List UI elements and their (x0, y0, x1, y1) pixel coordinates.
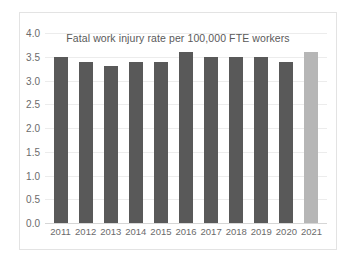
bar-slot (148, 33, 173, 223)
x-axis-tick-label: 2011 (48, 226, 73, 237)
plot-area: 4.03.53.02.52.01.51.00.50.0 (45, 33, 327, 223)
bar-slot (224, 33, 249, 223)
x-axis-tick-label: 2016 (173, 226, 198, 237)
y-axis-tick-label: 1.5 (26, 146, 40, 157)
bar[interactable] (179, 52, 193, 223)
x-axis-tick-label: 2012 (73, 226, 98, 237)
bar[interactable] (104, 66, 118, 223)
bar-slot (274, 33, 299, 223)
x-axis-tick-label: 2015 (148, 226, 173, 237)
bar-slot (48, 33, 73, 223)
bar-slot (98, 33, 123, 223)
bar-series (45, 33, 327, 223)
bar[interactable] (254, 57, 268, 223)
x-axis-tick-label: 2014 (123, 226, 148, 237)
x-axis-tick-label: 2020 (274, 226, 299, 237)
bar[interactable] (79, 62, 93, 224)
gridline (45, 223, 327, 224)
y-axis-tick-label: 3.0 (26, 75, 40, 86)
y-axis-tick-label: 0.0 (26, 218, 40, 229)
x-axis-tick-label: 2013 (98, 226, 123, 237)
y-axis-tick-label: 3.5 (26, 51, 40, 62)
bar-slot (249, 33, 274, 223)
x-axis-tick-label: 2018 (224, 226, 249, 237)
bar[interactable] (204, 57, 218, 223)
bar[interactable] (129, 62, 143, 224)
bar[interactable] (154, 62, 168, 224)
x-axis-tick-label: 2017 (199, 226, 224, 237)
bar[interactable] (279, 62, 293, 224)
bar[interactable] (54, 57, 68, 223)
x-axis-tick-label: 2019 (249, 226, 274, 237)
x-axis: 2011201220132014201520162017201820192020… (45, 226, 327, 237)
y-axis-tick-label: 2.0 (26, 123, 40, 134)
bar-slot (173, 33, 198, 223)
y-axis-tick-label: 2.5 (26, 99, 40, 110)
chart-container: Fatal work injury rate per 100,000 FTE w… (19, 12, 337, 250)
y-axis-tick-label: 1.0 (26, 170, 40, 181)
y-axis-tick-label: 0.5 (26, 194, 40, 205)
bar[interactable] (229, 57, 243, 223)
y-axis-tick-label: 4.0 (26, 28, 40, 39)
bar-slot (73, 33, 98, 223)
bar-slot (123, 33, 148, 223)
bar[interactable] (304, 52, 318, 223)
bar-slot (299, 33, 324, 223)
x-axis-tick-label: 2021 (299, 226, 324, 237)
bar-slot (199, 33, 224, 223)
